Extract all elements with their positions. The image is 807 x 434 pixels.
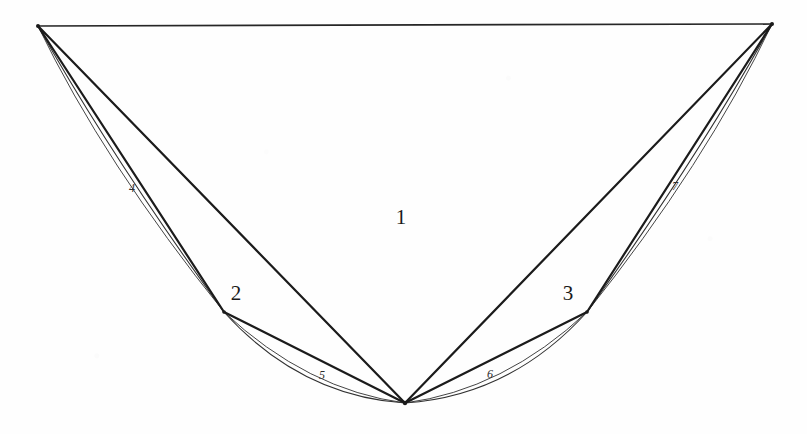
vertex-right-mid — [585, 310, 589, 314]
region-label-5: 5 — [319, 368, 325, 383]
edge-leftmid-to-bottom — [224, 312, 405, 403]
vertex-top-left — [36, 24, 40, 28]
region-label-7: 7 — [672, 179, 678, 194]
edge-topleft-to-bottom — [38, 26, 405, 403]
edge-topright-to-bottom — [405, 24, 772, 403]
vertex-top-right — [770, 22, 774, 26]
figure-canvas: 1 2 3 4 5 6 7 — [0, 0, 807, 434]
edge-top-side — [38, 24, 772, 26]
vertex-label-2: 2 — [231, 281, 242, 306]
edge-rightmid-to-bottom — [405, 312, 587, 403]
region-label-1: 1 — [396, 205, 407, 230]
vertex-left-mid — [222, 310, 226, 314]
edge-topleft-to-leftmid — [38, 26, 224, 312]
edge-topright-to-rightmid — [587, 24, 772, 312]
region-label-6: 6 — [487, 367, 493, 382]
vertex-label-3: 3 — [563, 281, 574, 306]
region-label-4: 4 — [129, 181, 135, 196]
vertex-bottom — [403, 401, 407, 405]
